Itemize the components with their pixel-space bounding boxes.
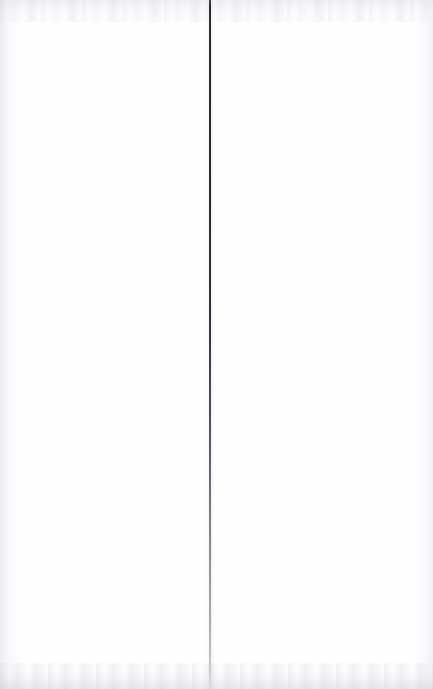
- scanned-page: [0, 0, 433, 689]
- paper-background: [0, 0, 433, 689]
